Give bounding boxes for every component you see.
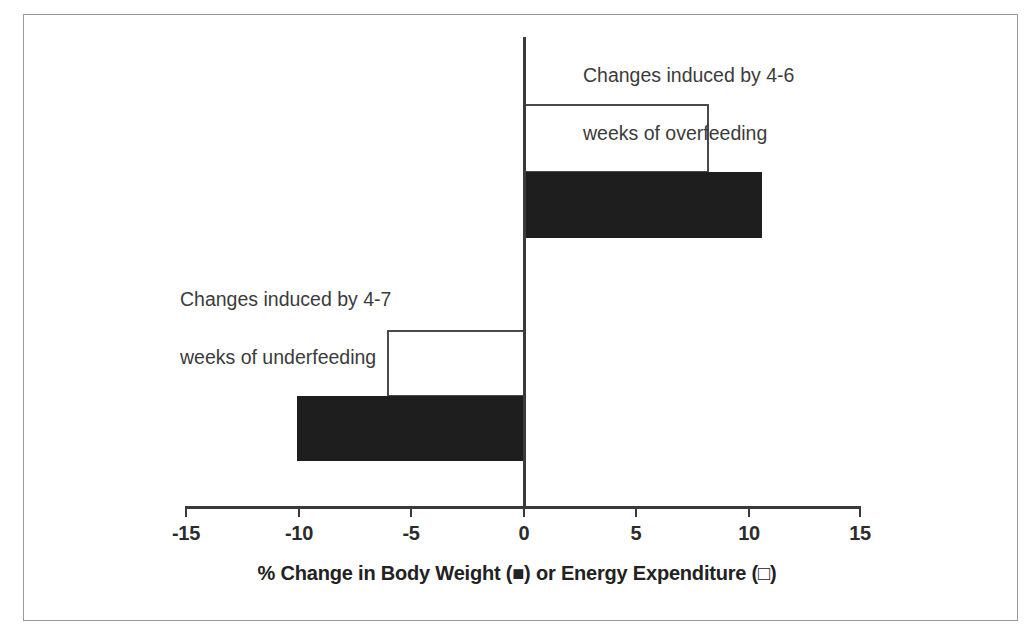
bar-solid-underfeeding bbox=[297, 396, 526, 461]
plot-area: -15 -10 -5 0 5 10 15 Changes induced by … bbox=[0, 0, 1034, 636]
annotation-overfeeding-line1: Changes induced by 4-6 bbox=[583, 61, 794, 90]
x-tick-label--15: -15 bbox=[156, 522, 216, 545]
x-tick-label--10: -10 bbox=[269, 522, 329, 545]
bar-solid-overfeeding bbox=[523, 172, 762, 238]
annotation-underfeeding: Changes induced by 4-7 weeks of underfee… bbox=[180, 256, 391, 401]
x-tick--15 bbox=[185, 506, 187, 517]
x-tick-15 bbox=[859, 506, 861, 517]
x-tick--5 bbox=[410, 506, 412, 517]
annotation-overfeeding: Changes induced by 4-6 weeks of overfeed… bbox=[583, 32, 794, 177]
x-tick--10 bbox=[298, 506, 300, 517]
bar-open-underfeeding bbox=[387, 330, 526, 397]
x-axis-title: % Change in Body Weight (■) or Energy Ex… bbox=[0, 562, 1034, 585]
annotation-underfeeding-line1: Changes induced by 4-7 bbox=[180, 285, 391, 314]
x-tick-0 bbox=[523, 506, 525, 517]
annotation-underfeeding-line2: weeks of underfeeding bbox=[180, 343, 391, 372]
x-tick-5 bbox=[635, 506, 637, 517]
annotation-overfeeding-line2: weeks of overfeeding bbox=[583, 119, 794, 148]
x-tick-label-0: 0 bbox=[494, 522, 554, 545]
x-tick-label-10: 10 bbox=[719, 522, 779, 545]
x-tick-label-5: 5 bbox=[606, 522, 666, 545]
x-tick-label--5: -5 bbox=[381, 522, 441, 545]
x-tick-label-15: 15 bbox=[830, 522, 890, 545]
figure-container: -15 -10 -5 0 5 10 15 Changes induced by … bbox=[0, 0, 1034, 636]
zero-axis-line bbox=[523, 37, 526, 509]
x-tick-10 bbox=[748, 506, 750, 517]
